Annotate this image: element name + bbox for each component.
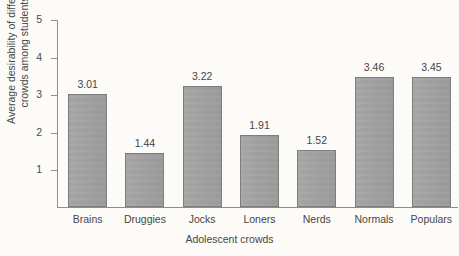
bar-value-label: 3.46 [364,61,384,73]
x-axis-tick-label: Loners [243,213,275,225]
bar-value-label: 3.45 [421,61,441,73]
bar-value-label: 3.01 [77,78,97,90]
bar-value-label: 3.22 [192,70,212,82]
bar: 3.46 [355,77,394,207]
y-axis-tick-label: 3 [36,88,42,100]
bar: 1.91 [240,135,279,207]
x-axis-tick-label: Jocks [189,213,216,225]
y-axis-tick: 1 [51,170,58,171]
bar: 3.01 [68,94,107,207]
y-axis-tick-label: 1 [36,163,42,175]
x-axis-tick-label: Nerds [303,213,331,225]
bar-value-label: 1.44 [135,137,155,149]
x-axis-title: Adolescent crowds [0,233,459,245]
x-axis-tick-label: Druggies [124,213,166,225]
x-axis-tick-label: Brains [73,213,103,225]
y-axis-title-line-1: Average desirability of different [5,0,18,124]
bar: 1.44 [125,153,164,207]
bar: 3.22 [183,86,222,207]
x-axis-tick-label: Populars [411,213,452,225]
y-axis-tick-label: 4 [36,51,42,63]
bar: 3.45 [412,77,451,207]
y-axis-tick-label: 2 [36,126,42,138]
x-axis-tick-label: Normals [355,213,394,225]
bar-value-label: 1.91 [249,119,269,131]
y-axis-line [57,20,58,208]
y-axis-title-line-2: crowds among students [18,0,31,107]
y-axis-tick-label: 5 [36,13,42,25]
y-axis-tick: 3 [51,95,58,96]
y-axis-tick: 2 [51,133,58,134]
y-axis-tick: 4 [51,58,58,59]
bar-chart-figure: Average desirability of different crowds… [0,0,459,256]
bar-value-label: 1.52 [307,134,327,146]
y-axis-title: Average desirability of different crowds… [1,0,35,147]
y-axis-tick: 5 [51,20,58,21]
x-axis-line [57,207,458,208]
plot-area: 12345 3.011.443.221.911.523.463.45 Brain… [57,20,458,208]
bar: 1.52 [297,150,336,207]
